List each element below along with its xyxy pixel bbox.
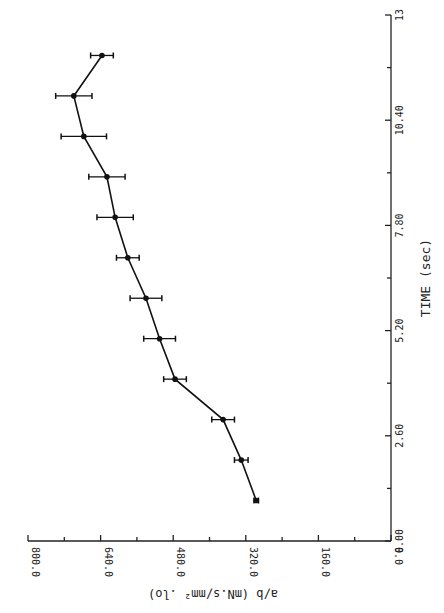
point-marker — [99, 53, 105, 59]
point-marker — [220, 417, 226, 423]
time-tick-label: 13 — [394, 9, 405, 21]
point-marker — [172, 376, 178, 382]
series-line — [74, 55, 256, 500]
point-marker — [81, 134, 87, 140]
time-tick-label: 2.60 — [394, 424, 405, 448]
data-point — [56, 93, 92, 99]
value-tick-label: 160.0 — [320, 547, 331, 577]
point-marker — [157, 336, 163, 342]
point-marker — [104, 174, 110, 180]
value-tick-label: 640.0 — [103, 547, 114, 577]
point-marker — [238, 457, 244, 463]
data-point — [234, 457, 248, 463]
time-tick-label: 0.00 — [394, 529, 405, 553]
data-point — [116, 255, 139, 261]
data-point — [253, 498, 259, 504]
line-chart: 0.0160.0320.0480.0640.0800.00.002.605.20… — [0, 0, 444, 613]
data-point — [212, 417, 235, 423]
point-marker — [253, 498, 259, 504]
y-axis-label: a/b (mN.s/mm² .lo) — [148, 587, 278, 601]
value-tick-label: 320.0 — [248, 547, 259, 577]
point-marker — [112, 215, 118, 221]
value-tick-label: 800.0 — [30, 547, 41, 577]
value-tick-label: 480.0 — [175, 547, 186, 577]
data-point — [130, 295, 162, 301]
time-tick-label: 5.20 — [394, 319, 405, 343]
point-marker — [71, 93, 77, 99]
data-point — [91, 52, 114, 58]
data-point — [144, 336, 176, 342]
x-axis-label: TIME (sec) — [418, 239, 433, 317]
data-point — [89, 174, 125, 180]
axes: 0.0160.0320.0480.0640.0800.00.002.605.20… — [28, 9, 405, 577]
time-tick-label: 7.80 — [394, 213, 405, 237]
data-point — [61, 133, 106, 139]
chart-container: 0.0160.0320.0480.0640.0800.00.002.605.20… — [0, 0, 444, 613]
point-marker — [125, 255, 131, 261]
plot-area — [56, 52, 259, 503]
data-point — [97, 214, 133, 220]
data-point — [164, 376, 187, 382]
time-tick-label: 10.40 — [394, 105, 405, 135]
point-marker — [143, 295, 149, 301]
